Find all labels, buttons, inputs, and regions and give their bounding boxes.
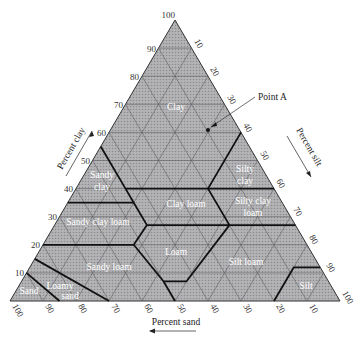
svg-text:50: 50 xyxy=(81,156,91,166)
svg-text:80: 80 xyxy=(130,72,140,82)
svg-text:40: 40 xyxy=(64,184,74,194)
svg-text:10: 10 xyxy=(15,268,25,278)
svg-text:100: 100 xyxy=(340,289,356,306)
region-clay: Clay xyxy=(167,102,185,112)
region-silt: Silt xyxy=(299,281,313,291)
point-a-label: Point A xyxy=(258,92,287,102)
region-clay-loam: Clay loam xyxy=(166,199,206,209)
soil-texture-triangle: Clay Sandy clay Silty clay Sandy clay lo… xyxy=(0,0,359,341)
region-silty-clay-loam-1: Silty clay xyxy=(235,196,271,206)
svg-text:40: 40 xyxy=(241,121,254,134)
svg-text:70: 70 xyxy=(114,100,124,110)
sand-axis-title: Percent sand xyxy=(149,317,200,334)
svg-text:70: 70 xyxy=(291,205,304,218)
svg-text:20: 20 xyxy=(208,65,221,78)
svg-text:50: 50 xyxy=(258,149,271,162)
region-loamy-sand-2: sand xyxy=(61,291,79,301)
svg-text:80: 80 xyxy=(76,302,89,315)
svg-text:60: 60 xyxy=(142,302,155,315)
region-sandy-clay-loam: Sandy clay loam xyxy=(66,217,130,227)
svg-text:90: 90 xyxy=(324,261,337,274)
region-sand: Sand xyxy=(20,286,39,296)
svg-text:60: 60 xyxy=(274,177,287,190)
svg-text:10: 10 xyxy=(192,37,205,50)
svg-text:20: 20 xyxy=(274,302,287,315)
region-loamy-sand-1: Loamy xyxy=(47,281,74,291)
region-silty-clay-loam-2: loam xyxy=(244,208,264,218)
svg-text:40: 40 xyxy=(208,302,221,315)
region-silt-loam: Silt loam xyxy=(229,257,264,267)
region-sandy-clay-2: clay xyxy=(94,182,110,192)
svg-text:Percent silt: Percent silt xyxy=(294,126,324,168)
svg-text:Percent sand: Percent sand xyxy=(152,317,201,327)
svg-text:50: 50 xyxy=(175,302,188,315)
region-silty-clay-2: clay xyxy=(237,176,253,186)
region-sandy-clay-1: Sandy xyxy=(90,170,114,180)
arrow-left-icon xyxy=(149,329,155,334)
svg-text:80: 80 xyxy=(307,233,320,246)
arrow-down-icon xyxy=(306,171,311,177)
svg-text:90: 90 xyxy=(43,302,56,315)
region-loam: Loam xyxy=(165,247,188,257)
svg-text:70: 70 xyxy=(109,302,122,315)
svg-text:30: 30 xyxy=(48,212,58,222)
silt-axis-title: Percent silt xyxy=(287,126,324,177)
svg-text:90: 90 xyxy=(147,44,157,54)
region-silty-clay-1: Silty xyxy=(236,164,254,174)
svg-text:100: 100 xyxy=(10,302,26,319)
svg-text:10: 10 xyxy=(307,302,320,315)
svg-text:60: 60 xyxy=(97,128,107,138)
svg-text:30: 30 xyxy=(225,93,238,106)
region-sandy-loam: Sandy loam xyxy=(86,262,132,272)
point-a-marker xyxy=(206,128,210,132)
svg-text:20: 20 xyxy=(31,240,41,250)
svg-text:30: 30 xyxy=(241,302,254,315)
svg-text:100: 100 xyxy=(162,10,176,20)
